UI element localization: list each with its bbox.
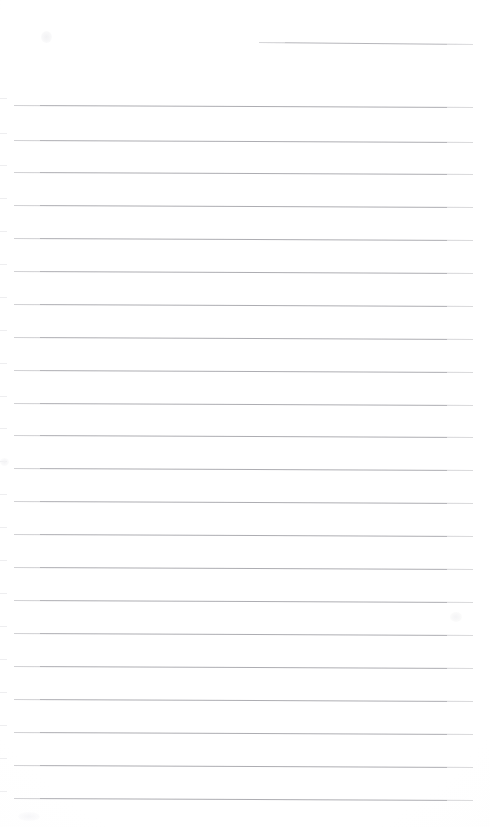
edge-tick-13 xyxy=(0,494,7,495)
edge-tick-2 xyxy=(0,133,7,134)
notebook-page xyxy=(0,0,490,827)
smudge-right-mid-mark xyxy=(450,612,462,622)
rule-line-1 xyxy=(14,105,473,108)
edge-tick-7 xyxy=(0,297,7,298)
edge-tick-5 xyxy=(0,231,7,232)
rule-line-16 xyxy=(14,600,473,603)
rule-line-19 xyxy=(14,699,473,702)
edge-tick-22 xyxy=(0,791,7,792)
rule-line-9 xyxy=(14,370,473,373)
rule-line-13 xyxy=(14,501,473,504)
edge-tick-19 xyxy=(0,692,7,693)
rule-line-18 xyxy=(14,666,473,669)
smudge-bottom-left-mark xyxy=(18,812,40,821)
rule-line-8 xyxy=(14,337,473,340)
edge-tick-11 xyxy=(0,428,7,429)
edge-tick-14 xyxy=(0,527,7,528)
rule-line-header xyxy=(259,42,473,45)
edge-tick-15 xyxy=(0,560,7,561)
rule-line-11 xyxy=(14,435,473,438)
rule-line-14 xyxy=(14,534,473,537)
edge-tick-16 xyxy=(0,593,7,594)
rule-line-7 xyxy=(14,304,473,307)
rule-line-15 xyxy=(14,567,473,570)
edge-tick-12 xyxy=(0,461,7,462)
rule-line-21 xyxy=(14,765,473,768)
smudge-top-left-mark xyxy=(41,31,52,43)
edge-tick-9 xyxy=(0,363,7,364)
edge-tick-10 xyxy=(0,396,7,397)
rule-line-10 xyxy=(14,403,473,406)
edge-tick-6 xyxy=(0,264,7,265)
rule-line-6 xyxy=(14,271,473,274)
rule-line-3 xyxy=(14,172,473,175)
rule-line-22 xyxy=(14,798,473,801)
rule-line-12 xyxy=(14,468,473,471)
edge-tick-3 xyxy=(0,165,7,166)
rule-line-5 xyxy=(14,238,473,241)
rule-line-20 xyxy=(14,732,473,735)
paper-texture xyxy=(0,0,490,827)
edge-tick-4 xyxy=(0,198,7,199)
edge-tick-21 xyxy=(0,758,7,759)
rule-line-2 xyxy=(14,140,473,143)
rule-line-4 xyxy=(14,205,473,208)
edge-tick-1 xyxy=(0,98,7,99)
edge-tick-20 xyxy=(0,725,7,726)
edge-tick-17 xyxy=(0,626,7,627)
rule-line-17 xyxy=(14,633,473,636)
edge-tick-18 xyxy=(0,659,7,660)
edge-tick-8 xyxy=(0,330,7,331)
smudge-left-edge-mark xyxy=(0,458,9,466)
